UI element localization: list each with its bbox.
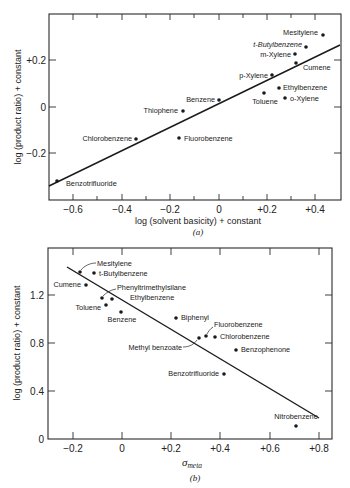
chart-b-ytick-label: 0.8	[30, 338, 44, 349]
label-benzene: Benzene	[186, 95, 215, 104]
label-benzotrifluoride: Benzotrifluoride	[66, 179, 117, 188]
point-p-xylene	[270, 73, 274, 77]
label-toluene: Toluene	[75, 303, 101, 312]
chart-a-xtick-label: −0.2	[160, 204, 180, 215]
chart-a-xtick-label: 0	[216, 204, 222, 215]
label-ethylbenzene: Ethylbenzene	[283, 83, 327, 92]
chart-b-xtick-label: +0.4	[210, 443, 230, 454]
label-t-butylbenzene: t-Butylbenzene	[253, 40, 302, 49]
point-fluorobenzene	[204, 334, 208, 338]
label-mesitylene: Mesitylene	[283, 28, 318, 37]
leader-fluorobenzene	[207, 327, 213, 334]
chart-a-xtick-label: −0.6	[63, 204, 83, 215]
label-nitrobenzene: Nitrobenzene	[274, 412, 317, 421]
point-benzophenone	[234, 348, 238, 352]
label-biphenyl: Biphenyl	[181, 313, 209, 322]
chart-a-xtick-label: −0.4	[112, 204, 132, 215]
point-ethylbenzene	[277, 86, 281, 90]
point-thiophene	[181, 109, 185, 113]
point-benzene	[119, 310, 123, 314]
chart-b: −0.2 0 +0.2 +0.4 +0.6 +0.8 1.2 0.8 0.4 0…	[12, 248, 332, 483]
point-ethylbenzene	[110, 297, 114, 301]
label-cumene: Cumene	[303, 63, 331, 72]
label-p-xylene: p-Xylene	[239, 71, 268, 80]
label-mesitylene: Mesitylene	[97, 259, 132, 268]
chart-b-xtick-label: −0.2	[63, 443, 83, 454]
leader-mesitylene	[81, 263, 96, 270]
label-cumene: Cumene	[53, 280, 81, 289]
label-ethylbenzene: Ethylbenzene	[130, 293, 174, 302]
chart-b-xtick-label: +0.8	[309, 443, 329, 454]
chart-a-ytick-label: −0.2	[26, 148, 46, 159]
label-benzene: Benzene	[108, 315, 137, 324]
label-fluorobenzene: Fluorobenzene	[214, 320, 263, 329]
point-mesitylene	[78, 270, 82, 274]
chart-a-fit-line	[49, 45, 340, 186]
label-benzotrifluoride: Benzotrifluoride	[168, 369, 219, 378]
label-phenyltrimethylsilane: Phenyltrimethylsilane	[117, 283, 186, 292]
point-fluorobenzene	[177, 136, 181, 140]
point-phenyltrimethylsilane	[100, 296, 104, 300]
chart-a-y-axis-label: log (product ratio) + constant	[13, 49, 23, 164]
point-cumene	[294, 61, 298, 65]
chart-b-ytick-label: 0.4	[30, 386, 44, 397]
chart-a-xtick-label: +0.4	[305, 204, 325, 215]
point-biphenyl	[174, 316, 178, 320]
chart-b-xtick-label: +0.6	[260, 443, 280, 454]
point-toluene	[104, 303, 108, 307]
point-chlorobenzene	[134, 137, 138, 141]
chart-a-panel-label: (a)	[193, 227, 204, 237]
chart-b-y-axis-label: log (product ratio) + constant	[12, 285, 22, 400]
chart-a-x-axis-label: log (solvent basicity) + constant	[135, 216, 261, 226]
label-chlorobenzene: Chlorobenzene	[83, 134, 133, 143]
chart-a-ytick-label: +0.2	[26, 55, 46, 66]
point-cumene	[84, 283, 88, 287]
label-benzophenone: Benzophenone	[241, 345, 290, 354]
chart-b-xtick-label: +0.2	[161, 443, 181, 454]
chart-a-xtick-label: +0.2	[257, 204, 277, 215]
point-chlorobenzene	[213, 335, 217, 339]
label-fluorobenzene: Fluorobenzene	[184, 134, 233, 143]
chart-b-ytick-label: 0	[38, 434, 44, 445]
point-benzene	[217, 98, 221, 102]
label-methyl-benzoate: Methyl benzoate	[128, 343, 182, 352]
point-t-butylbenzene	[92, 271, 96, 275]
chart-b-fit-line	[67, 267, 319, 418]
point-toluene	[262, 91, 266, 95]
label-m-xylene: m-Xylene	[260, 50, 291, 59]
chart-b-x-axis-label: σmeta	[182, 456, 202, 470]
chart-b-ytick-label: 1.2	[30, 290, 44, 301]
chart-b-frame	[48, 248, 332, 439]
label-o-xylene: o-Xylene	[290, 94, 319, 103]
label-t-butylbenzene: t-Butylbenzene	[99, 269, 148, 278]
figure: −0.6 −0.4 −0.2 0 +0.2 +0.4 +0.2 0 −0.2 l…	[0, 0, 350, 488]
point-m-xylene	[293, 52, 297, 56]
point-methyl-benzoate	[197, 336, 201, 340]
point-benzotrifluoride	[55, 179, 59, 183]
label-chlorobenzene: Chlorobenzene	[220, 332, 270, 341]
chart-b-xtick-label: 0	[119, 443, 125, 454]
point-benzotrifluoride	[222, 372, 226, 376]
point-mesitylene	[321, 33, 325, 37]
point-nitrobenzene	[294, 424, 298, 428]
chart-a: −0.6 −0.4 −0.2 0 +0.2 +0.4 +0.2 0 −0.2 l…	[13, 14, 341, 237]
point-o-xylene	[283, 96, 287, 100]
label-thiophene: Thiophene	[144, 106, 179, 115]
point-t-butylbenzene	[304, 45, 308, 49]
label-toluene: Toluene	[252, 97, 278, 106]
chart-a-ytick-label: 0	[40, 102, 46, 113]
chart-b-panel-label: (b)	[190, 473, 201, 483]
